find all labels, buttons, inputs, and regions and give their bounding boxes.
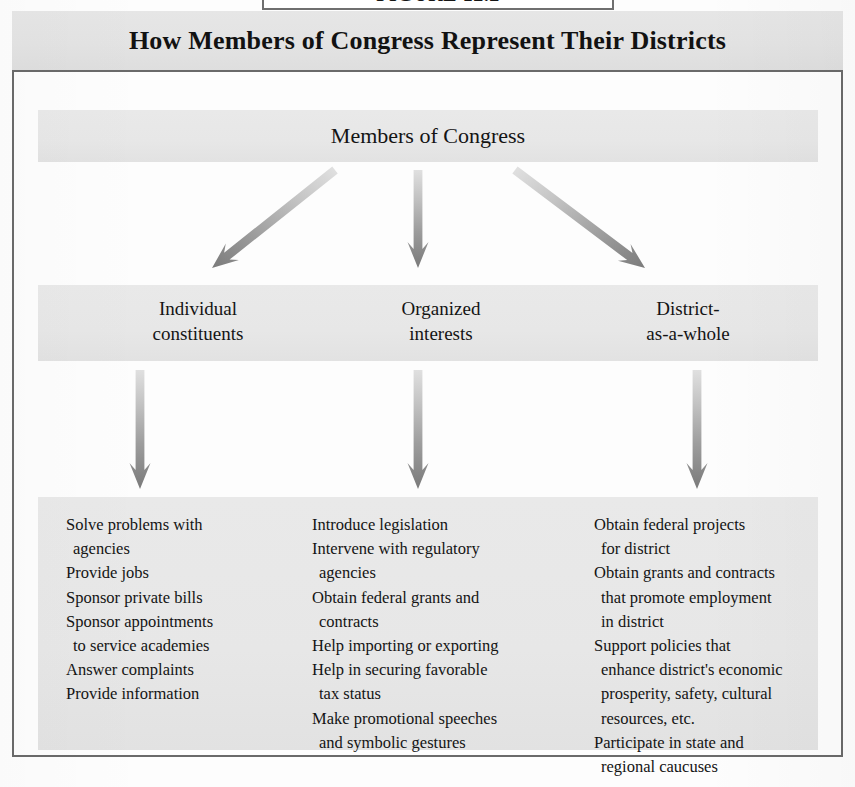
activity-item: Help in securing favorabletax status bbox=[312, 658, 554, 706]
activity-item: Obtain grants and contractsthat promote … bbox=[594, 561, 832, 634]
activity-item-text: Make promotional speeches bbox=[312, 707, 554, 731]
activity-item-text: Obtain federal projects bbox=[594, 513, 832, 537]
activity-item: Sponsor private bills bbox=[66, 586, 296, 610]
figure-title-band: How Members of Congress Represent Their … bbox=[12, 11, 843, 72]
activity-item-continuation: agencies bbox=[66, 537, 296, 561]
activity-item: Sponsor appointmentsto service academies bbox=[66, 610, 296, 658]
activity-item-text: Solve problems with bbox=[66, 513, 296, 537]
category-individual-constituents-line1: Individual bbox=[98, 296, 298, 321]
activity-item: Help importing or exporting bbox=[312, 634, 554, 658]
activity-item-text: Sponsor private bills bbox=[66, 586, 296, 610]
activity-item-text: Help importing or exporting bbox=[312, 634, 554, 658]
activity-item-text: Introduce legislation bbox=[312, 513, 554, 537]
activity-item-text: Obtain grants and contracts bbox=[594, 561, 832, 585]
activity-item-continuation: regional caucuses bbox=[594, 755, 832, 779]
figure-number-tab: FIGURE 12.2 bbox=[262, 0, 614, 10]
activity-item: Support policies thatenhance district's … bbox=[594, 634, 832, 731]
activity-item-text: Provide information bbox=[66, 682, 296, 706]
category-band: Individual constituents Organized intere… bbox=[38, 285, 818, 361]
activity-item: Provide jobs bbox=[66, 561, 296, 585]
activity-item-text: Answer complaints bbox=[66, 658, 296, 682]
category-individual-constituents: Individual constituents bbox=[98, 296, 298, 346]
activity-item: Solve problems withagencies bbox=[66, 513, 296, 561]
activity-list-individual-constituents: Solve problems withagenciesProvide jobsS… bbox=[66, 513, 296, 707]
activity-item: Obtain federal projectsfor district bbox=[594, 513, 832, 561]
figure-page: FIGURE 12.2 How Members of Congress Repr… bbox=[0, 0, 855, 787]
category-organized-interests-line1: Organized bbox=[341, 296, 541, 321]
activity-item-continuation: in district bbox=[594, 610, 832, 634]
figure-number-label: FIGURE 12.2 bbox=[264, 0, 612, 6]
activity-item: Make promotional speechesand symbolic ge… bbox=[312, 707, 554, 755]
category-individual-constituents-line2: constituents bbox=[98, 321, 298, 346]
node-members-of-congress-label: Members of Congress bbox=[331, 123, 525, 149]
activity-item-continuation: prosperity, safety, cultural bbox=[594, 682, 832, 706]
category-district-as-a-whole-line2: as-a-whole bbox=[588, 321, 788, 346]
activity-item-continuation: enhance district's economic bbox=[594, 658, 832, 682]
category-organized-interests: Organized interests bbox=[341, 296, 541, 346]
category-district-as-a-whole-line1: District- bbox=[588, 296, 788, 321]
activity-item-text: Help in securing favorable bbox=[312, 658, 554, 682]
activity-item-text: Support policies that bbox=[594, 634, 832, 658]
activity-item-text: Participate in state and bbox=[594, 731, 832, 755]
figure-title: How Members of Congress Represent Their … bbox=[129, 26, 726, 56]
activity-item-continuation: for district bbox=[594, 537, 832, 561]
activity-item-continuation: that promote employment bbox=[594, 586, 832, 610]
category-district-as-a-whole: District- as-a-whole bbox=[588, 296, 788, 346]
activity-item-text: Sponsor appointments bbox=[66, 610, 296, 634]
activity-item-text: Intervene with regulatory bbox=[312, 537, 554, 561]
activity-item-continuation: contracts bbox=[312, 610, 554, 634]
category-organized-interests-line2: interests bbox=[341, 321, 541, 346]
activity-item-text: Provide jobs bbox=[66, 561, 296, 585]
activities-band: Solve problems withagenciesProvide jobsS… bbox=[38, 497, 818, 750]
activity-item-continuation: agencies bbox=[312, 561, 554, 585]
activity-item-text: Obtain federal grants and bbox=[312, 586, 554, 610]
activity-list-district-as-a-whole: Obtain federal projectsfor districtObtai… bbox=[594, 513, 832, 779]
node-members-of-congress: Members of Congress bbox=[38, 110, 818, 162]
activity-item: Intervene with regulatoryagencies bbox=[312, 537, 554, 585]
activity-list-organized-interests: Introduce legislationIntervene with regu… bbox=[312, 513, 554, 755]
activity-item-continuation: tax status bbox=[312, 682, 554, 706]
activity-item: Participate in state andregional caucuse… bbox=[594, 731, 832, 779]
activity-item: Answer complaints bbox=[66, 658, 296, 682]
activity-item: Provide information bbox=[66, 682, 296, 706]
activity-item: Introduce legislation bbox=[312, 513, 554, 537]
activity-item-continuation: to service academies bbox=[66, 634, 296, 658]
activity-item-continuation: and symbolic gestures bbox=[312, 731, 554, 755]
activity-item-continuation: resources, etc. bbox=[594, 707, 832, 731]
activity-item: Obtain federal grants andcontracts bbox=[312, 586, 554, 634]
